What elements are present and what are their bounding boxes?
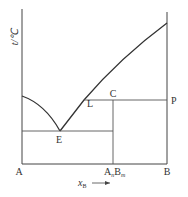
liquidus-curve-a	[22, 96, 60, 131]
y-axis-label: t/℃	[9, 27, 20, 46]
x-arrow-head-icon	[105, 181, 110, 185]
label-E: E	[56, 134, 62, 145]
x-axis-label: xB	[77, 177, 86, 189]
label-C: C	[110, 88, 117, 99]
label-B: B	[164, 166, 171, 177]
compound-label: AnBm	[104, 166, 126, 178]
liquidus-curve-b	[60, 23, 167, 131]
label-L: L	[87, 98, 93, 109]
label-A: A	[15, 166, 23, 177]
diagram-canvas: t/℃ A B E L C P AnBm xB	[0, 0, 188, 197]
phase-diagram: t/℃ A B E L C P AnBm xB	[0, 0, 188, 197]
label-P: P	[171, 95, 177, 106]
